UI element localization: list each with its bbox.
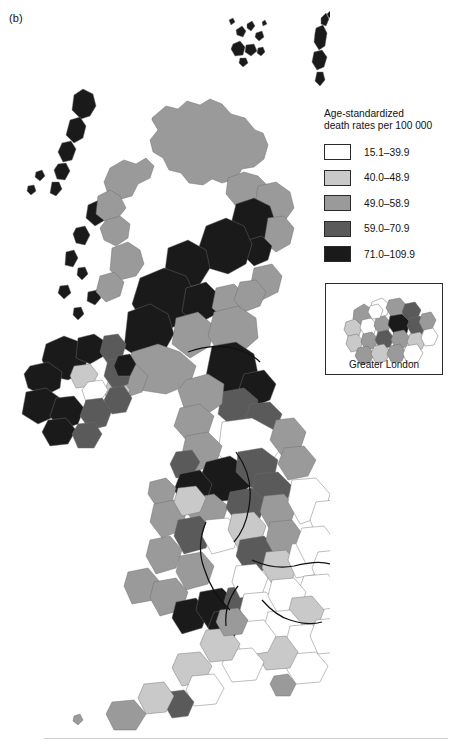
region-orkney [229, 18, 267, 67]
bottom-divider [44, 738, 448, 739]
legend-item: 71.0–109.9 [324, 246, 466, 263]
region-ceredigion [146, 536, 182, 574]
legend-item: 49.0–58.9 [324, 195, 466, 212]
uk-choropleth-map [0, 0, 330, 746]
legend-swatch [324, 195, 351, 211]
legend-swatch [324, 221, 351, 237]
legend-swatch [324, 246, 351, 262]
legend-label: 49.0–58.9 [364, 198, 409, 209]
region-powys-south [176, 552, 214, 590]
region-shetland [312, 11, 330, 86]
legend-swatch [324, 170, 351, 186]
region-cornwall-west [106, 700, 146, 730]
figure-panel: (b) [0, 0, 469, 746]
legend-item: 40.0–48.9 [324, 169, 466, 186]
region-humberside [278, 446, 316, 480]
legend-label: 59.0–70.9 [364, 223, 409, 234]
region-outer-hebrides [27, 89, 96, 196]
region-northern-ireland [22, 334, 136, 448]
inset-caption: Greater London [326, 359, 442, 370]
region-highland [150, 99, 268, 185]
region-inner-hebrides [58, 200, 107, 320]
region-south-lanarkshire [172, 312, 214, 358]
legend-label: 15.1–39.9 [364, 147, 409, 158]
legend-label: 40.0–48.9 [364, 172, 409, 183]
region-isles-of-scilly [73, 714, 83, 725]
greater-london-inset: Greater London [325, 283, 443, 375]
legend-label: 71.0–109.9 [364, 249, 415, 260]
map-legend: Age-standardized death rates per 100 000… [324, 108, 466, 271]
legend-swatch [324, 144, 351, 160]
legend-item: 15.1–39.9 [324, 144, 466, 161]
legend-item: 59.0–70.9 [324, 220, 466, 237]
legend-title: Age-standardized death rates per 100 000 [324, 108, 466, 133]
uk-map-svg [0, 0, 330, 746]
